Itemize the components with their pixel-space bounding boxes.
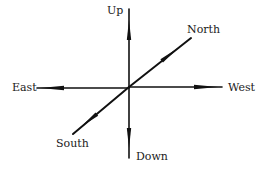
down-arrowhead-icon [127,128,131,148]
north-axis-line [129,38,191,87]
east-arrowhead-icon [40,86,64,90]
up-arrowhead-icon [127,20,131,40]
north-arrowhead-icon [160,48,178,63]
label-north: North [187,24,220,35]
label-east: East [12,82,37,93]
label-south: South [56,138,89,149]
west-arrowhead-icon [194,85,218,89]
south-arrowhead-icon [82,113,98,127]
label-up: Up [107,5,123,16]
south-axis-line [73,87,129,134]
axes-drawing [0,0,265,169]
label-down: Down [136,151,168,162]
direction-axes-diagram: Up Down East West North South [0,0,265,169]
label-west: West [228,82,255,93]
